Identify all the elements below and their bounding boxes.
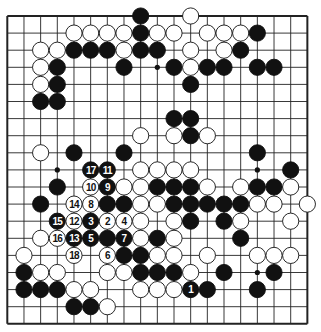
black-stone: [49, 282, 65, 298]
black-stone: [216, 264, 232, 280]
white-stone: [66, 25, 82, 41]
white-stone: 4: [116, 213, 132, 229]
white-stone: [99, 299, 115, 315]
white-stone: [83, 282, 99, 298]
black-stone: 11: [99, 162, 115, 178]
white-stone: [33, 76, 49, 92]
move-number: 18: [69, 250, 80, 261]
black-stone: [249, 59, 265, 75]
white-stone: [216, 42, 232, 58]
white-stone: [233, 179, 249, 195]
black-stone: [49, 179, 65, 195]
white-stone: [216, 25, 232, 41]
white-stone: [266, 196, 282, 212]
white-stone: [133, 128, 149, 144]
black-stone: [116, 196, 132, 212]
black-stone: [233, 196, 249, 212]
white-stone: [149, 196, 165, 212]
black-stone: [66, 299, 82, 315]
black-stone: [133, 25, 149, 41]
white-stone: [199, 247, 215, 263]
black-stone: [66, 42, 82, 58]
black-stone: [249, 179, 265, 195]
hoshi-dot: [255, 270, 260, 275]
white-stone: [199, 179, 215, 195]
black-stone: 13: [66, 230, 82, 246]
black-stone: [116, 59, 132, 75]
black-stone: 15: [49, 213, 65, 229]
black-stone: [133, 264, 149, 280]
black-stone: [99, 230, 115, 246]
white-stone: 18: [66, 247, 82, 263]
black-stone: [199, 196, 215, 212]
black-stone: [266, 179, 282, 195]
black-stone: [83, 42, 99, 58]
black-stone: [149, 179, 165, 195]
white-stone: [233, 213, 249, 229]
black-stone: [149, 264, 165, 280]
move-number: 14: [69, 199, 80, 210]
white-stone: [199, 128, 215, 144]
move-number: 13: [69, 233, 80, 244]
black-stone: [133, 8, 149, 24]
go-board: 171110914815123241613571861: [0, 0, 321, 332]
white-stone: [166, 247, 182, 263]
white-stone: [249, 247, 265, 263]
black-stone: [216, 196, 232, 212]
white-stone: [49, 264, 65, 280]
black-stone: [99, 196, 115, 212]
white-stone: [283, 213, 299, 229]
black-stone: [166, 196, 182, 212]
white-stone: [99, 264, 115, 280]
black-stone: [33, 282, 49, 298]
white-stone: [149, 247, 165, 263]
white-stone: [33, 145, 49, 161]
white-stone: [183, 162, 199, 178]
white-stone: 14: [66, 196, 82, 212]
white-stone: [149, 162, 165, 178]
black-stone: [49, 59, 65, 75]
white-stone: [133, 162, 149, 178]
black-stone: 7: [116, 230, 132, 246]
white-stone: [33, 230, 49, 246]
black-stone: [249, 282, 265, 298]
white-stone: [266, 247, 282, 263]
black-stone: [233, 230, 249, 246]
white-stone: 2: [99, 213, 115, 229]
white-stone: [166, 162, 182, 178]
white-stone: [33, 42, 49, 58]
white-stone: [133, 230, 149, 246]
white-stone: [199, 25, 215, 41]
white-stone: 10: [83, 179, 99, 195]
white-stone: [116, 25, 132, 41]
white-stone: [183, 8, 199, 24]
black-stone: [216, 59, 232, 75]
white-stone: [49, 42, 65, 58]
white-stone: [33, 264, 49, 280]
black-stone: 3: [83, 213, 99, 229]
black-stone: [183, 196, 199, 212]
move-number: 12: [69, 216, 80, 227]
white-stone: [116, 179, 132, 195]
hoshi-dot: [255, 167, 260, 172]
white-stone: 6: [99, 247, 115, 263]
black-stone: [166, 264, 182, 280]
white-stone: [33, 59, 49, 75]
black-stone: 17: [83, 162, 99, 178]
white-stone: [133, 179, 149, 195]
white-stone: [16, 247, 32, 263]
black-stone: [16, 264, 32, 280]
black-stone: [166, 179, 182, 195]
black-stone: [199, 282, 215, 298]
white-stone: [99, 25, 115, 41]
white-stone: [183, 264, 199, 280]
white-stone: [249, 196, 265, 212]
black-stone: [49, 76, 65, 92]
black-stone: [166, 59, 182, 75]
black-stone: [249, 25, 265, 41]
white-stone: [66, 282, 82, 298]
black-stone: [249, 145, 265, 161]
move-number: 16: [53, 233, 64, 244]
white-stone: [299, 196, 315, 212]
move-number: 17: [86, 165, 97, 176]
